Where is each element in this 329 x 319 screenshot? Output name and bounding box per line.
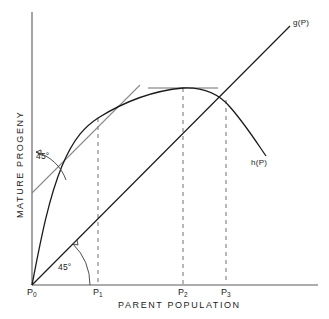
x-tick-label-p0-sub: 0 <box>33 291 37 298</box>
x-tick-label-p3-sub: 3 <box>227 291 231 298</box>
x-axis-title: PARENT POPULATION <box>118 300 241 310</box>
x-tick-label-p2: P2 <box>178 287 188 297</box>
tangent-line-at-p1 <box>32 85 140 193</box>
x-tick-label-p3: P3 <box>221 287 231 297</box>
angle-arc-lower <box>73 244 90 285</box>
curve-label-h-of-p: h(P) <box>251 158 267 167</box>
x-tick-label-p2-sub: 2 <box>184 291 188 298</box>
y-axis-title: MATURE PROGENY <box>15 111 25 218</box>
x-tick-label-p1: P1 <box>93 287 103 297</box>
curve-label-g-of-p: g(P) <box>293 18 309 27</box>
angle-label-upper: 45° <box>36 151 49 161</box>
x-tick-label-p0: P0 <box>27 287 37 297</box>
line-g-of-p <box>32 26 290 285</box>
angle-label-lower: 45° <box>58 262 71 272</box>
curve-h-of-p <box>32 88 266 285</box>
figure-canvas: MATURE PROGENY PARENT POPULATION P0 P1 P… <box>0 0 329 319</box>
x-tick-label-p1-sub: 1 <box>99 291 103 298</box>
